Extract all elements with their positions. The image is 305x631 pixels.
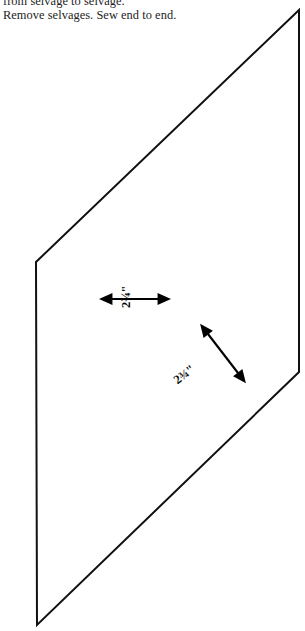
width-measure-label: 2¾" [120, 285, 133, 308]
parallelogram-shape [36, 10, 299, 625]
quilt-parallelogram-diagram [0, 0, 305, 631]
